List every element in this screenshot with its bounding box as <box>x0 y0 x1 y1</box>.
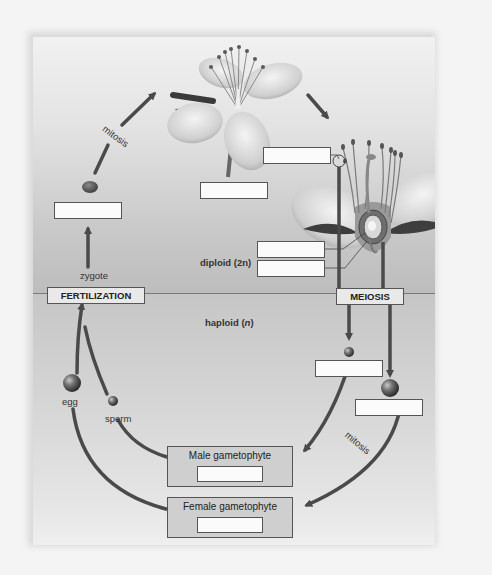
blank-field-megaspore[interactable] <box>355 399 423 416</box>
egg-cell-icon <box>63 374 81 392</box>
blank-field-microspore[interactable] <box>315 360 383 377</box>
blank-field-ovary[interactable] <box>257 260 325 277</box>
sperm-cell-icon <box>108 396 118 406</box>
meiosis-box: MEIOSIS <box>336 288 404 305</box>
zygote-label: zygote <box>80 270 108 281</box>
haploid-label: haploid (n) <box>205 317 254 328</box>
fertilization-box: FERTILIZATION <box>47 287 145 304</box>
microspore-icon <box>344 347 354 357</box>
male-gametophyte-box: Male gametophyte <box>167 446 293 487</box>
diploid-label: diploid (2n) <box>200 257 251 268</box>
blank-field-male-gametophyte[interactable] <box>197 466 263 482</box>
sperm-label: sperm <box>105 413 131 424</box>
life-cycle-diagram: mitosis zygote diploid (2n) haploid (n) … <box>33 37 435 545</box>
megaspore-icon <box>381 379 399 397</box>
male-gametophyte-title: Male gametophyte <box>168 450 292 461</box>
egg-label: egg <box>62 396 78 407</box>
blank-field-female-gametophyte[interactable] <box>197 517 263 533</box>
blank-field-ovule[interactable] <box>257 241 325 258</box>
female-gametophyte-title: Female gametophyte <box>168 501 292 512</box>
blank-field-seed[interactable] <box>54 202 122 219</box>
female-gametophyte-box: Female gametophyte <box>167 497 293 538</box>
blank-field-anther[interactable] <box>263 147 331 164</box>
seed-icon <box>82 181 98 193</box>
blank-field-sporophyte[interactable] <box>200 182 268 199</box>
